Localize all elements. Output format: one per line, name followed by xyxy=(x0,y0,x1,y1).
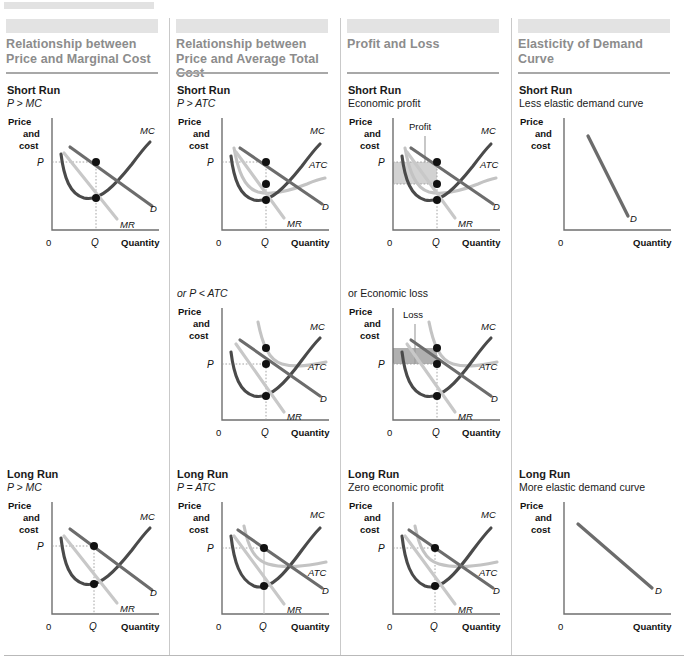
curve-label-mc: MC xyxy=(481,509,496,520)
equilibrium-dot-price xyxy=(433,158,441,166)
equilibrium-dot-price xyxy=(262,158,270,166)
equilibrium-dot-mc xyxy=(433,392,441,400)
panel-title: Short Run xyxy=(348,84,401,96)
y-axis-label-line3: cost xyxy=(360,330,380,341)
column-price-marginal-cost: Relationship between Price and Marginal … xyxy=(0,0,168,663)
panel-subtitle: P > MC xyxy=(7,481,42,493)
curve-label-mc: MC xyxy=(481,125,496,136)
y-axis-label-line2: and xyxy=(535,128,552,139)
figure-sheet: Relationship between Price and Marginal … xyxy=(0,0,688,663)
column-header-bar xyxy=(6,19,158,33)
axes xyxy=(564,118,671,230)
panel-subtitle: P > MC xyxy=(7,97,42,109)
tick-quantity: Q xyxy=(430,621,438,632)
curve-label-atc: ATC xyxy=(308,159,327,170)
tick-origin: 0 xyxy=(216,237,221,248)
bottom-rule xyxy=(4,655,684,656)
curve-label-atc: ATC xyxy=(478,567,497,578)
tick-price: P xyxy=(378,157,385,168)
y-axis-label-line3: cost xyxy=(531,524,551,535)
y-axis-label-line2: and xyxy=(23,128,40,139)
curve-label-mc: MC xyxy=(140,125,155,136)
y-axis-label-line3: cost xyxy=(19,140,39,151)
tick-price: P xyxy=(207,157,214,168)
equilibrium-dot-price xyxy=(90,542,98,550)
curve-label-mr: MR xyxy=(458,218,473,229)
curve-label-d: D xyxy=(322,585,329,596)
column-header-title: Profit and Loss xyxy=(347,37,507,52)
curve-atc xyxy=(244,526,326,567)
curve-d xyxy=(588,136,628,216)
column-elasticity-of-demand: Elasticity of Demand Curve Short Run Les… xyxy=(512,0,680,663)
curve-label-mc: MC xyxy=(310,321,325,332)
y-axis-label-line3: cost xyxy=(531,140,551,151)
callout-label-profit: Profit xyxy=(409,121,432,132)
tick-price: P xyxy=(207,359,214,370)
x-axis-label: Quantity xyxy=(121,621,160,632)
tick-origin: 0 xyxy=(46,237,51,248)
panel-title: Long Run xyxy=(177,468,228,480)
y-axis-label-line1: Price xyxy=(349,116,372,127)
curve-label-atc: ATC xyxy=(307,361,326,372)
x-axis-label: Quantity xyxy=(462,427,501,438)
y-axis-label-line2: and xyxy=(193,128,210,139)
tick-quantity: Q xyxy=(259,621,267,632)
curve-label-mr: MR xyxy=(287,411,302,422)
tick-price: P xyxy=(207,543,214,554)
curve-label-d: D xyxy=(493,585,500,596)
equilibrium-dot-price xyxy=(92,158,100,166)
curve-label-atc: ATC xyxy=(479,159,498,170)
curve-label-mr: MR xyxy=(287,604,302,615)
x-axis-label: Quantity xyxy=(121,237,160,248)
tick-price: P xyxy=(37,157,44,168)
x-axis-label: Quantity xyxy=(462,237,501,248)
panel-subtitle: Economic profit xyxy=(348,97,420,109)
equilibrium-dot-mc xyxy=(433,196,441,204)
column-header-rule xyxy=(176,72,328,74)
equilibrium-dot-atc xyxy=(433,344,441,352)
equilibrium-dot-mc xyxy=(262,392,270,400)
panel-subtitle: P = ATC xyxy=(177,481,215,493)
equilibrium-dot-tangency xyxy=(431,544,439,552)
tick-quantity: Q xyxy=(261,237,269,248)
tick-origin: 0 xyxy=(387,237,392,248)
tick-price: P xyxy=(37,541,44,552)
tick-quantity: Q xyxy=(91,237,99,248)
equilibrium-dot-mc xyxy=(262,196,270,204)
equilibrium-dot-mc xyxy=(260,582,268,590)
tick-origin: 0 xyxy=(558,621,563,632)
panel-title: Short Run xyxy=(177,84,230,96)
curve-label-mr: MR xyxy=(458,604,473,615)
graph-c4-long-run: Price and cost D 0 Quantity xyxy=(516,496,676,636)
curve-label-d: D xyxy=(493,201,500,212)
tick-origin: 0 xyxy=(216,621,221,632)
curve-label-mr: MR xyxy=(120,219,135,230)
curve-label-d: D xyxy=(630,213,637,224)
panel-or-label: or Economic loss xyxy=(348,287,428,299)
column-header-rule xyxy=(347,72,499,74)
panel-title: Short Run xyxy=(519,84,572,96)
y-axis-label-line2: and xyxy=(535,512,552,523)
y-axis-label-line2: and xyxy=(364,512,381,523)
column-header-bar xyxy=(347,19,499,33)
curve-label-mr: MR xyxy=(120,603,135,614)
y-axis-label-line3: cost xyxy=(360,140,380,151)
graph-c3-zero-profit: Price and cost MC ATC D MR P Q 0 Quanti xyxy=(345,496,505,636)
curve-label-mr: MR xyxy=(458,411,473,422)
column-price-average-total-cost: Relationship between Price and Average T… xyxy=(170,0,338,663)
callout-label-loss: Loss xyxy=(403,309,423,320)
graph-c4-short-run: Price and cost D 0 Quantity xyxy=(516,112,676,252)
y-axis-label-line1: Price xyxy=(520,500,543,511)
tick-origin: 0 xyxy=(558,237,563,248)
graph-c2-long-run: Price and cost MC ATC D MR xyxy=(174,496,334,636)
curve-label-d: D xyxy=(320,393,327,404)
curve-label-mc: MC xyxy=(310,125,325,136)
curve-label-d: D xyxy=(322,201,329,212)
y-axis-label-line3: cost xyxy=(360,524,380,535)
panel-or-label: or P < ATC xyxy=(177,287,228,299)
tick-origin: 0 xyxy=(46,621,51,632)
panel-subtitle: Less elastic demand curve xyxy=(519,97,643,109)
column-header-rule xyxy=(518,72,670,74)
equilibrium-dot-mc xyxy=(431,582,439,590)
tick-quantity: Q xyxy=(261,427,269,438)
